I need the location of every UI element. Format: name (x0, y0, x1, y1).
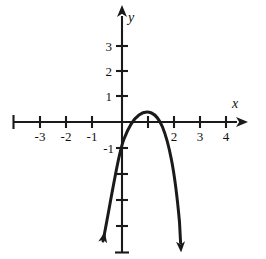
x-tick-label-neg3: -3 (35, 130, 46, 143)
graph-figure: -3 -2 -1 2 3 4 3 2 1 -1 x y (0, 0, 266, 259)
parabola-curve (103, 112, 181, 243)
y-axis-label: y (128, 11, 134, 25)
y-tick-label-1: 1 (106, 90, 113, 103)
y-tick-label-3: 3 (106, 40, 113, 53)
x-tick-label-4: 4 (223, 130, 230, 143)
y-tick-label-neg1: -1 (103, 142, 114, 155)
x-tick-label-2: 2 (171, 130, 178, 143)
x-tick-label-neg2: -2 (61, 130, 72, 143)
x-axis (13, 115, 237, 129)
y-tick-label-2: 2 (106, 65, 113, 78)
x-tick-label-neg1: -1 (87, 130, 98, 143)
x-tick-label-3: 3 (197, 130, 204, 143)
x-axis-label: x (232, 97, 238, 111)
